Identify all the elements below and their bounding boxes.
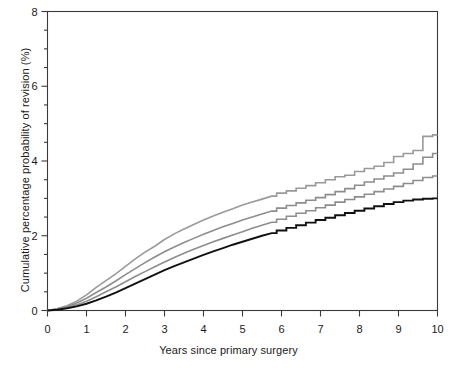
- chart-figure: 012345678910 02468 Cumulative percentage…: [0, 0, 457, 370]
- y-axis-tick-labels: 02468: [31, 6, 37, 317]
- chart-canvas: 012345678910 02468: [0, 0, 457, 370]
- y-tick-label: 0: [31, 305, 37, 317]
- plot-frame: [48, 12, 438, 311]
- x-tick-label: 3: [161, 323, 167, 335]
- x-tick-label: 1: [83, 323, 89, 335]
- series-line-curve-3: [48, 176, 438, 311]
- series-line-curve-1-upper: [48, 135, 438, 311]
- series-line-curve-4-lower: [48, 198, 438, 310]
- x-axis-tick-labels: 012345678910: [44, 323, 443, 335]
- x-tick-label: 7: [317, 323, 323, 335]
- x-tick-label: 4: [200, 323, 206, 335]
- y-tick-label: 8: [31, 6, 37, 18]
- x-axis-title: Years since primary surgery: [0, 344, 457, 356]
- x-tick-label: 0: [44, 323, 50, 335]
- y-tick-label: 2: [31, 230, 37, 242]
- y-tick-label: 6: [31, 80, 37, 92]
- x-tick-label: 8: [356, 323, 362, 335]
- y-axis-title: Cumulative percentage probability of rev…: [19, 20, 31, 320]
- x-tick-label: 2: [122, 323, 128, 335]
- x-tick-label: 5: [239, 323, 245, 335]
- x-tick-label: 9: [395, 323, 401, 335]
- x-tick-label: 10: [431, 323, 443, 335]
- x-tick-label: 6: [278, 323, 284, 335]
- data-series-group: [48, 135, 438, 311]
- x-axis-ticks: [48, 311, 438, 317]
- y-axis-ticks: [42, 12, 48, 311]
- y-tick-label: 4: [31, 155, 37, 167]
